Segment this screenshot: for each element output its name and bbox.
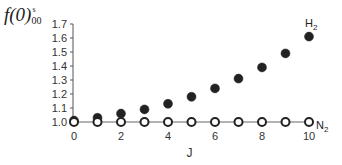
data-point <box>258 118 266 126</box>
data-point <box>282 118 290 126</box>
x-tick-label: 4 <box>165 130 171 142</box>
data-point <box>258 63 267 72</box>
data-point <box>305 118 313 126</box>
data-point <box>188 118 196 126</box>
data-point <box>94 118 102 126</box>
data-point <box>70 118 78 126</box>
data-point <box>187 92 196 101</box>
x-tick-label: 8 <box>259 130 265 142</box>
y-tick-label: 1.2 <box>52 88 67 100</box>
axes <box>70 24 73 122</box>
y-tick-label: 1.4 <box>52 60 67 72</box>
series-label-h2: H2 <box>305 17 318 32</box>
y-tick-label: 1.6 <box>52 32 67 44</box>
y-tick-label: 1.7 <box>52 18 67 30</box>
series-label-subscript: 2 <box>313 23 318 32</box>
data-point <box>234 74 243 83</box>
data-point <box>211 118 219 126</box>
series-h2 <box>70 32 314 125</box>
x-tick-label: 6 <box>212 130 218 142</box>
data-point <box>141 118 149 126</box>
y-tick-label: 1.0 <box>52 116 67 128</box>
data-point <box>281 49 290 58</box>
x-axis-title: J <box>187 146 193 160</box>
x-tick-label: 10 <box>303 130 315 142</box>
data-point <box>117 109 126 118</box>
y-tick-label: 1.5 <box>52 46 67 58</box>
data-point <box>305 32 314 41</box>
y-tick-label: 1.1 <box>52 102 67 114</box>
scatter-chart: 1.01.11.21.31.41.51.61.70246810JH2N2 <box>0 0 342 165</box>
series-n2 <box>70 118 313 126</box>
series-label-subscript: 2 <box>324 125 329 134</box>
axis-labels: 1.01.11.21.31.41.51.61.70246810JH2N2 <box>52 17 329 160</box>
y-tick-label: 1.3 <box>52 74 67 86</box>
series-layer <box>70 32 314 126</box>
x-tick-label: 0 <box>71 130 77 142</box>
data-point <box>164 118 172 126</box>
data-point <box>164 99 173 108</box>
series-label-n2: N2 <box>316 119 329 134</box>
x-tick-label: 2 <box>118 130 124 142</box>
data-point <box>235 118 243 126</box>
data-point <box>211 84 220 93</box>
data-point <box>140 105 149 114</box>
data-point <box>117 118 125 126</box>
